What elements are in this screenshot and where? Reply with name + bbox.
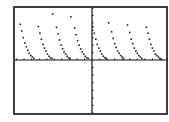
- data-point: [155, 53, 157, 55]
- data-point: [103, 55, 105, 57]
- data-point: [156, 55, 158, 57]
- data-point: [57, 33, 59, 35]
- data-point: [30, 55, 32, 57]
- data-point: [44, 47, 46, 49]
- data-point: [135, 50, 137, 52]
- axes: [15, 8, 168, 113]
- data-point: [52, 13, 54, 15]
- data-point: [98, 47, 100, 49]
- data-point: [118, 53, 120, 55]
- data-point: [48, 55, 50, 57]
- data-point: [100, 50, 102, 52]
- data-point: [68, 57, 70, 59]
- data-point: [63, 51, 65, 53]
- data-point: [24, 42, 26, 44]
- data-point: [69, 58, 71, 60]
- data-point: [161, 58, 163, 60]
- data-point: [62, 48, 64, 50]
- data-point: [77, 40, 79, 42]
- data-point: [120, 55, 122, 57]
- calculator-graph-screen: [0, 0, 169, 122]
- data-point: [152, 47, 154, 49]
- data-point: [141, 58, 143, 60]
- data-point: [147, 32, 149, 34]
- data-point: [101, 53, 103, 55]
- data-point: [138, 55, 140, 57]
- data-point: [140, 56, 142, 58]
- data-point: [45, 50, 47, 52]
- data-point: [41, 38, 43, 40]
- data-point: [83, 53, 85, 55]
- data-point: [137, 53, 139, 55]
- data-point: [158, 56, 160, 58]
- graph-plot: [0, 0, 169, 122]
- data-point: [115, 47, 117, 49]
- data-point: [117, 50, 119, 52]
- data-point: [108, 22, 110, 24]
- data-point: [133, 47, 135, 49]
- data-point: [29, 53, 31, 55]
- data-point: [32, 56, 34, 58]
- data-point: [153, 50, 155, 52]
- data-point: [149, 38, 151, 40]
- data-point: [22, 37, 24, 39]
- data-point: [56, 27, 58, 29]
- data-point: [93, 32, 95, 34]
- data-point: [81, 51, 83, 53]
- data-point: [80, 48, 82, 50]
- data-point: [123, 58, 125, 60]
- data-point: [129, 32, 131, 34]
- data-point: [59, 39, 61, 41]
- data-point: [106, 58, 108, 60]
- data-point: [92, 26, 94, 28]
- data-point: [70, 16, 72, 18]
- data-point: [150, 44, 152, 46]
- data-point: [26, 46, 28, 48]
- data-point: [19, 24, 21, 26]
- data-point: [78, 44, 80, 46]
- data-point: [38, 26, 40, 28]
- data-point: [39, 32, 41, 34]
- data-point: [130, 38, 132, 40]
- data-point: [146, 27, 148, 29]
- data-point: [127, 24, 129, 26]
- data-point: [121, 56, 123, 58]
- data-point: [50, 57, 52, 59]
- data-point: [112, 38, 114, 40]
- data-point: [51, 58, 53, 60]
- data-point: [21, 30, 23, 32]
- data-point: [95, 38, 97, 40]
- data-point: [42, 44, 44, 46]
- data-point: [86, 57, 88, 59]
- data-point: [84, 55, 86, 57]
- data-point: [104, 57, 106, 59]
- data-point: [96, 44, 98, 46]
- data-point: [60, 44, 62, 46]
- data-point: [75, 34, 77, 36]
- data-point: [33, 58, 35, 60]
- data-point: [74, 27, 76, 29]
- data-point: [132, 43, 134, 45]
- data-point: [27, 50, 29, 52]
- function-dots: [19, 13, 162, 60]
- data-point: [65, 53, 67, 55]
- data-point: [159, 58, 161, 60]
- data-point: [87, 58, 89, 60]
- data-point: [111, 31, 113, 33]
- data-point: [66, 55, 68, 57]
- data-point: [114, 43, 116, 45]
- data-point: [47, 53, 49, 55]
